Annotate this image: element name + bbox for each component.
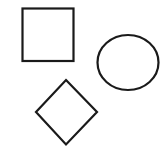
square-shape xyxy=(23,9,74,62)
diamond-shape xyxy=(36,80,97,145)
circle-shape xyxy=(98,35,159,90)
shapes-canvas xyxy=(0,0,168,149)
